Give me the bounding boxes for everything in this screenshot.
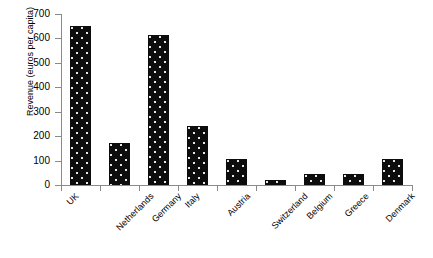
- x-axis-label-italy: Italy: [182, 191, 201, 210]
- y-axis-tick-label: 200: [10, 131, 50, 141]
- x-axis-label-netherlands: Netherlands: [114, 191, 155, 232]
- y-axis-tick-label: 400: [10, 82, 50, 92]
- x-axis-tick: [61, 186, 62, 191]
- x-axis-tick: [178, 186, 179, 191]
- x-axis-tick: [295, 186, 296, 191]
- y-axis-title: Revenue (euros per capita): [25, 0, 36, 152]
- x-axis-label-uk: UK: [64, 191, 80, 207]
- x-axis-tick: [373, 186, 374, 191]
- x-axis-tick: [256, 186, 257, 191]
- x-axis-tick: [412, 186, 413, 191]
- bar-chart: Revenue (euros per capita) 0100200300400…: [0, 0, 433, 258]
- bar-germany: [148, 35, 169, 185]
- x-axis-tick: [217, 186, 218, 191]
- plot-area: [61, 14, 412, 185]
- x-axis-label-denmark: Denmark: [383, 191, 416, 224]
- x-axis-tick: [100, 186, 101, 191]
- bar-switzerland: [265, 180, 286, 185]
- y-axis-tick-label: 600: [10, 33, 50, 43]
- y-axis-tick-label: 100: [10, 156, 50, 166]
- bar-greece: [343, 174, 364, 185]
- bar-italy: [187, 126, 208, 185]
- x-axis-label-belgium: Belgium: [304, 191, 334, 221]
- y-axis-tick-label: 0: [10, 180, 50, 190]
- bar-denmark: [382, 159, 403, 185]
- bar-uk: [70, 26, 91, 185]
- x-axis-label-greece: Greece: [342, 191, 370, 219]
- x-axis-label-switzerland: Switzerland: [269, 191, 309, 231]
- y-axis-tick-label: 700: [10, 9, 50, 19]
- y-axis-tick-label: 300: [10, 107, 50, 117]
- bar-netherlands: [109, 143, 130, 185]
- x-axis-tick: [139, 186, 140, 191]
- bar-belgium: [304, 174, 325, 185]
- x-axis-line: [61, 185, 413, 186]
- x-axis-tick: [334, 186, 335, 191]
- x-axis-label-austria: Austria: [225, 191, 252, 218]
- y-axis-tick-label: 500: [10, 58, 50, 68]
- bar-austria: [226, 159, 247, 185]
